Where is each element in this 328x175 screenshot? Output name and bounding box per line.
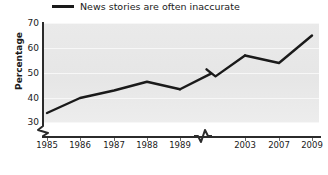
x-tick-label-2007: 2007 [268, 141, 290, 150]
y-tick-60: 60 [28, 44, 39, 53]
x-tick-label-1988: 1988 [136, 141, 158, 150]
data-line-segment-early [47, 82, 180, 113]
x-tick-label-2009: 2009 [301, 141, 323, 150]
data-line-segment-late [245, 36, 312, 64]
line-chart: News stories are often inaccurate 70 60 … [0, 0, 328, 175]
data-line-break-marker [180, 56, 245, 90]
x-tick-label-2003: 2003 [234, 141, 256, 150]
y-tick-70: 70 [28, 19, 39, 28]
y-tick-40: 40 [28, 94, 39, 103]
x-tick-label-1987: 1987 [103, 141, 125, 150]
y-tick-30: 30 [28, 118, 39, 127]
x-tick-label-1985: 1985 [36, 141, 58, 150]
x-tick-label-1986: 1986 [69, 141, 91, 150]
x-tick-label-1989: 1989 [169, 141, 191, 150]
y-tick-50: 50 [28, 69, 39, 78]
y-axis-title: Percentage [14, 26, 24, 96]
x-axis-break-icon [194, 129, 212, 143]
y-axis-line [42, 22, 44, 124]
